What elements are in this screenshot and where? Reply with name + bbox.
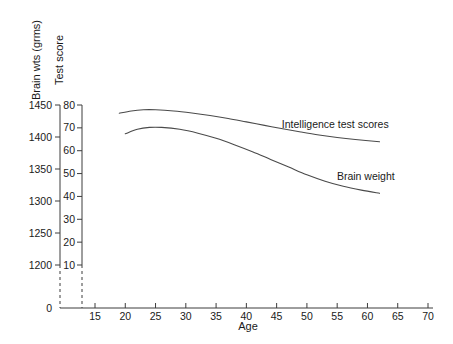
x-tick-label: 50 (301, 310, 313, 322)
x-axis-title: Age (238, 320, 258, 332)
series-curve-brain-weight (125, 127, 379, 193)
y-axis-right: 1020304050607080 Test score (53, 35, 82, 308)
y-tick-label-left: 1400 (29, 131, 53, 143)
x-axis: 152025303540455055606570 Age (60, 303, 434, 332)
x-tick-label: 20 (119, 310, 131, 322)
y-axis-left-ticks: 120012501300135014001450 (29, 99, 60, 271)
x-tick-label: 45 (271, 310, 283, 322)
y-tick-label-right: 30 (63, 213, 75, 225)
x-tick-label: 25 (150, 310, 162, 322)
y-axis-left-title: Brain wts (grms) (30, 20, 42, 100)
x-tick-label: 30 (180, 310, 192, 322)
y-tick-label-right: 20 (63, 236, 75, 248)
y-tick-label-right: 70 (63, 121, 75, 133)
series-label-intelligence-test-scores: Intelligence test scores (282, 118, 389, 130)
y-tick-label-right: 10 (63, 259, 75, 271)
y-tick-label-right: 50 (63, 167, 75, 179)
series-label-brain-weight: Brain weight (337, 170, 395, 182)
x-tick-label: 35 (210, 310, 222, 322)
y-tick-label-right: 40 (63, 190, 75, 202)
y-tick-label-right: 80 (63, 99, 75, 111)
y-axis-right-title: Test score (53, 35, 65, 85)
x-axis-ticks: 152025303540455055606570 (89, 303, 434, 322)
x-tick-label: 55 (331, 310, 343, 322)
x-tick-label: 65 (392, 310, 404, 322)
x-tick-label: 70 (422, 310, 434, 322)
y-axis-right-ticks: 1020304050607080 (63, 99, 82, 271)
y-axis-left-zero-label: 0 (46, 302, 52, 314)
y-tick-label-left: 1300 (29, 195, 53, 207)
x-tick-label: 60 (362, 310, 374, 322)
x-tick-label: 15 (89, 310, 101, 322)
y-tick-label-left: 1350 (29, 163, 53, 175)
y-tick-label-left: 1200 (29, 259, 53, 271)
brain-weight-intelligence-chart: 152025303540455055606570 Age 12001250130… (0, 0, 453, 344)
chart-svg: 152025303540455055606570 Age 12001250130… (0, 0, 453, 344)
y-tick-label-right: 60 (63, 144, 75, 156)
y-tick-label-left: 1250 (29, 227, 53, 239)
